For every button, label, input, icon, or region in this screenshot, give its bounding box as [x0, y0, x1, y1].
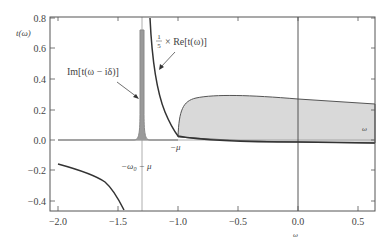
x-tick-label: −1.0 [169, 216, 187, 227]
re-frac-num: 1 [157, 33, 161, 41]
chart: −2.0 −1.5 −1.0 −0.5 0.0 0.5 0.8 0.6 0.4 … [0, 0, 392, 247]
re-curve-lower [58, 164, 124, 210]
y-tick-label: −0.4 [28, 196, 46, 207]
y-tick-label: 0.8 [34, 13, 47, 24]
plot-svg: −2.0 −1.5 −1.0 −0.5 0.0 0.5 0.8 0.6 0.4 … [0, 0, 392, 247]
mu-label: −μ [170, 142, 181, 152]
band-label: ω [362, 125, 367, 133]
x-tick-label: −0.5 [229, 216, 247, 227]
y-tick-labels: 0.8 0.6 0.4 0.2 0.0 −0.2 −0.4 [28, 13, 46, 207]
x-tick-label: 0.0 [292, 216, 305, 227]
y-tick-label: 0.0 [34, 135, 47, 146]
y-tick-label: −0.2 [28, 165, 46, 176]
y-axis-label: t(ω) [16, 28, 31, 38]
re-arrow [161, 52, 175, 67]
x-tick-label: 0.5 [352, 216, 365, 227]
x-tick-labels: −2.0 −1.5 −1.0 −0.5 0.0 0.5 [49, 216, 364, 227]
im-label: Im[t(ω − iδ)] [67, 66, 119, 78]
y-tick-label: 0.4 [34, 74, 47, 85]
im-arrow [117, 82, 137, 97]
omega0-label: −ω0 − μ [121, 161, 152, 172]
y-tick-label: 0.6 [34, 43, 47, 54]
x-axis-label: ω [293, 231, 298, 239]
x-tick-label: −1.5 [109, 216, 127, 227]
y-tick-label: 0.2 [34, 105, 47, 116]
x-tick-label: −2.0 [49, 216, 67, 227]
re-label: × Re[t(ω)] [165, 36, 207, 48]
re-frac-den: 5 [157, 42, 161, 50]
shaded-band [178, 95, 375, 143]
